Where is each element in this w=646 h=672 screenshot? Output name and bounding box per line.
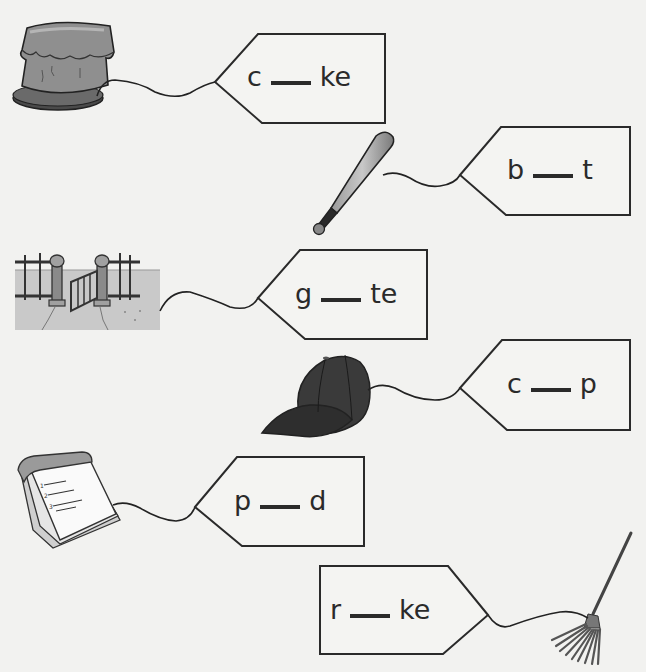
svg-text:3: 3 <box>49 503 53 510</box>
word-tag-1: c ke <box>247 62 351 92</box>
word-suffix: d <box>309 486 326 516</box>
word-tag-4: c p <box>507 369 597 399</box>
rake-icon <box>552 533 631 664</box>
word-prefix: c <box>507 369 522 399</box>
word-prefix: c <box>247 62 262 92</box>
letter-blank[interactable] <box>271 81 311 85</box>
word-suffix: t <box>582 155 593 185</box>
worksheet: 1 2 3 <box>0 0 646 672</box>
word-tag-6: r ke <box>330 595 430 625</box>
notepad-icon: 1 2 3 <box>18 452 120 548</box>
cap-icon <box>262 355 370 437</box>
word-prefix: b <box>507 155 524 185</box>
letter-blank[interactable] <box>350 614 390 618</box>
svg-text:1: 1 <box>40 482 44 489</box>
letter-blank[interactable] <box>533 174 573 178</box>
gate-icon <box>15 253 160 330</box>
letter-blank[interactable] <box>260 505 300 509</box>
svg-text:2: 2 <box>44 492 48 499</box>
baseball-bat-icon <box>314 132 394 234</box>
word-tag-2: b t <box>507 155 593 185</box>
worksheet-art: 1 2 3 <box>0 0 646 672</box>
letter-blank[interactable] <box>531 388 571 392</box>
word-suffix: te <box>370 279 397 309</box>
word-suffix: p <box>580 369 597 399</box>
word-suffix: ke <box>399 595 430 625</box>
word-prefix: g <box>295 279 312 309</box>
word-prefix: p <box>234 486 251 516</box>
cake-icon <box>13 22 114 110</box>
word-tag-5: p d <box>234 486 326 516</box>
word-suffix: ke <box>320 62 351 92</box>
letter-blank[interactable] <box>321 298 361 302</box>
word-tag-3: g te <box>295 279 397 309</box>
word-prefix: r <box>330 595 341 625</box>
